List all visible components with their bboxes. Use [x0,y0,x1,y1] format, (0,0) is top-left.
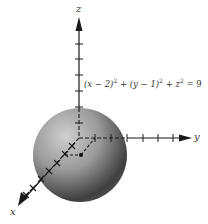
center-dot [79,153,83,157]
y-arrow-icon [179,135,192,142]
sphere-equation: (x − 2)2 + (y − 1)2 + z2 = 9 [84,77,202,89]
eq-rhs: = 9 [184,79,202,89]
eq-term-x: (x − 2) [84,79,113,89]
z-arrow-icon [76,17,83,31]
x-axis-label: x [10,207,16,217]
eq-term-y: (y − 1) [130,79,159,89]
eq-plus: + [117,79,130,89]
eq-plus: + [163,79,176,89]
y-axis-label: y [194,132,200,142]
z-axis-label: z [76,4,81,14]
diagram-canvas [0,0,208,224]
sphere-diagram: z y x (x − 2)2 + (y − 1)2 + z2 = 9 [0,0,208,224]
